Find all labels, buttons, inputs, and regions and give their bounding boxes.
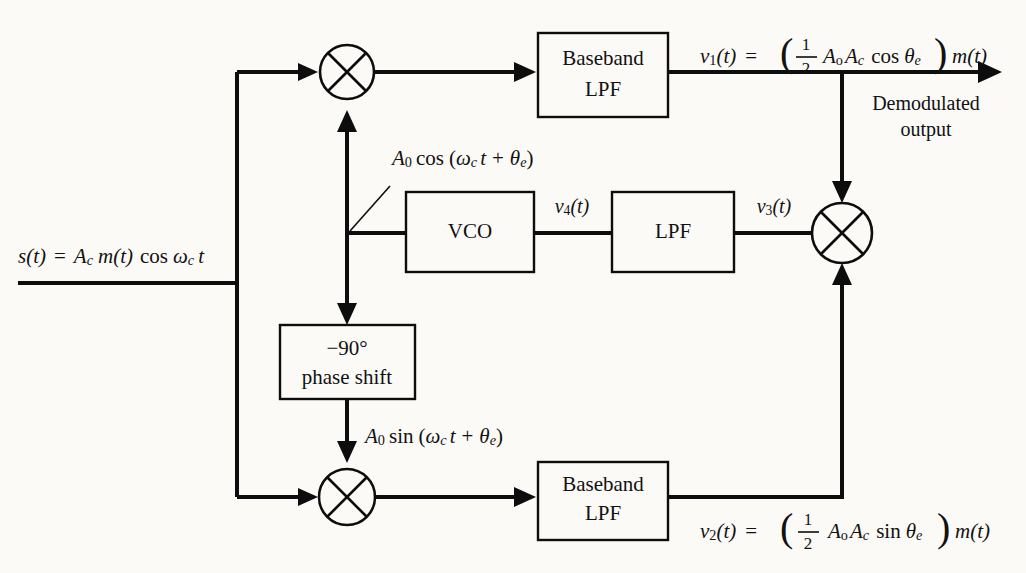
label-v1-rhs: AoAccosθe	[821, 44, 921, 68]
arrowhead-top-mixer-lo-in	[337, 110, 357, 132]
block-baseband-lpf-top-line2: LPF	[585, 77, 621, 101]
arrowhead-top-mixer-in	[298, 63, 318, 81]
wire-v2-feedback	[668, 270, 842, 497]
arrowhead-bottom-lpf-in	[514, 487, 536, 507]
label-v1-lhs: v1(t)=	[700, 44, 757, 68]
block-baseband-lpf-bottom-line2: LPF	[585, 501, 621, 525]
label-input-signal: s(t)=Acm(t)cosωct	[18, 244, 205, 268]
label-v2-close-paren: )	[937, 505, 950, 550]
block-loop-lpf-label: LPF	[655, 219, 691, 243]
label-v2-frac-numerator: 1	[804, 510, 813, 529]
label-v4: v4(t)	[555, 195, 590, 218]
label-demodulated-output-line2: output	[900, 118, 952, 141]
label-v1-tail: m(t)	[952, 44, 987, 68]
arrowhead-bottom-mixer-in	[298, 488, 318, 506]
arrowhead-top-lpf-in	[514, 62, 536, 82]
label-v1-close-paren: )	[934, 30, 947, 75]
label-v2-rhs: AoAcsinθe	[826, 519, 923, 543]
label-v2-frac-denominator: 2	[804, 534, 813, 553]
arrowhead-loop-mixer-bottom-in	[832, 263, 852, 285]
label-vco-output-cos: A0cos(ωct+θe)	[390, 146, 534, 170]
block-baseband-lpf-bottom-line1: Baseband	[562, 472, 644, 496]
multiplier-top[interactable]	[320, 45, 374, 99]
leader-line-vco-output-label	[350, 186, 390, 231]
block-baseband-lpf-top-line1: Baseband	[562, 46, 644, 70]
arrowhead-loop-mixer-top-in	[832, 181, 852, 203]
arrowhead-bottom-mixer-lo-in	[337, 441, 357, 463]
label-vco-output-sin: A0sin(ωct+θe)	[363, 424, 503, 448]
block-phase-shift-line2: phase shift	[302, 365, 393, 389]
label-v2-tail: m(t)	[955, 519, 990, 543]
block-diagram: Baseband LPF Baseband LPF VCO LPF −90° p…	[0, 0, 1026, 573]
arrowhead-phase-shift-in	[337, 303, 357, 325]
label-v2-open-paren: (	[780, 505, 793, 550]
label-v1-open-paren: (	[780, 30, 793, 75]
label-demodulated-output-line1: Demodulated	[872, 92, 980, 114]
label-v2-equation: v2(t)= ( 1 2 AoAcsinθe ) m(t)	[700, 505, 990, 553]
block-phase-shift-line1: −90°	[326, 336, 367, 360]
label-v1-frac-denominator: 2	[802, 59, 811, 78]
multiplier-bottom[interactable]	[319, 469, 375, 525]
label-v3: v3(t)	[757, 195, 792, 218]
figure-canvas: Baseband LPF Baseband LPF VCO LPF −90° p…	[0, 0, 1026, 573]
label-v1-frac-numerator: 1	[802, 35, 811, 54]
multiplier-loop[interactable]	[812, 203, 872, 263]
block-vco-label: VCO	[448, 219, 492, 243]
label-v2-lhs: v2(t)=	[700, 519, 757, 543]
